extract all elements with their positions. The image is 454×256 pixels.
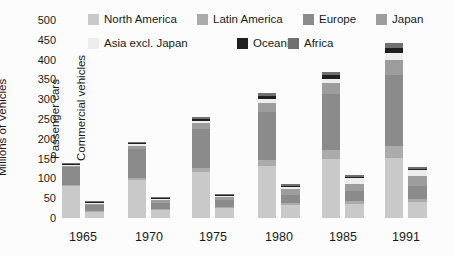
bar-segment-1985-commercial-japan — [345, 184, 364, 191]
passenger-cars-label: Passenger cars — [49, 79, 63, 159]
legend-item-latin-america: Latin America — [197, 13, 283, 25]
bar-segment-1985-passenger-latin-america — [322, 150, 340, 158]
bar-segment-1975-passenger-oceania — [192, 119, 210, 121]
bar-segment-1965-commercial-oceania — [85, 202, 104, 203]
bar-segment-1985-passenger-africa — [322, 72, 340, 75]
legend-label-north-america: North America — [104, 13, 177, 25]
bar-segment-1975-commercial-oceania — [215, 195, 234, 196]
bar-segment-1985-commercial-oceania — [345, 177, 364, 179]
bar-segment-1975-commercial-europe — [215, 200, 234, 206]
vehicles-stacked-bar-chart: Millions of Vehicles 0501001502002503003… — [0, 0, 454, 256]
bar-segment-1975-passenger-asia-excl-japan — [192, 121, 210, 123]
bar-segment-1970-commercial-north-america — [151, 210, 170, 218]
x-label-1965: 1965 — [61, 230, 105, 244]
bar-segment-1980-commercial-africa — [281, 184, 300, 185]
x-label-1991: 1991 — [384, 230, 428, 244]
bar-segment-1970-commercial-asia-excl-japan — [151, 199, 170, 200]
bar-segment-1991-commercial-oceania — [408, 169, 427, 171]
bar-segment-1965-passenger-oceania — [62, 164, 80, 166]
bar-segment-1965-passenger-japan — [62, 166, 80, 167]
legend-label-japan: Japan — [392, 13, 423, 25]
bar-segment-1991-passenger-europe — [385, 75, 403, 146]
bar-segment-1970-commercial-africa — [151, 197, 170, 198]
bar-segment-1965-commercial-north-america — [85, 212, 104, 218]
bar-segment-1970-commercial-oceania — [151, 198, 170, 199]
legend-swatch-japan — [376, 14, 387, 25]
bar-segment-1975-passenger-japan — [192, 123, 210, 130]
bar-segment-1965-passenger-asia-excl-japan — [62, 165, 80, 166]
legend-item-asia-excl-japan: Asia excl. Japan — [88, 37, 188, 49]
bar-segment-1965-commercial-asia-excl-japan — [85, 203, 104, 204]
bar-segment-1970-commercial-latin-america — [151, 209, 170, 210]
bar-segment-1975-commercial-asia-excl-japan — [215, 196, 234, 197]
bar-segment-1970-commercial-europe — [151, 203, 170, 209]
legend-label-europe: Europe — [319, 13, 356, 25]
bar-segment-1970-passenger-europe — [128, 149, 146, 178]
bar-segment-1970-passenger-north-america — [128, 180, 146, 218]
bar-segment-1980-passenger-latin-america — [258, 160, 276, 166]
bar-segment-1980-passenger-europe — [258, 112, 276, 160]
bar-segment-1965-commercial-japan — [85, 204, 104, 206]
bar-segment-1975-commercial-japan — [215, 197, 234, 201]
bar-segment-1985-passenger-north-america — [322, 159, 340, 218]
bar-segment-1970-passenger-japan — [128, 146, 146, 150]
bar-segment-1965-commercial-africa — [85, 201, 104, 202]
bar-segment-1980-commercial-north-america — [281, 205, 300, 218]
bar-segment-1965-commercial-europe — [85, 205, 104, 211]
legend-swatch-africa — [288, 38, 299, 49]
bar-segment-1985-commercial-north-america — [345, 204, 364, 218]
bar-segment-1991-commercial-europe — [408, 186, 427, 199]
legend-swatch-europe — [303, 14, 314, 25]
bar-segment-1985-commercial-europe — [345, 191, 364, 201]
bar-segment-1980-passenger-asia-excl-japan — [258, 99, 276, 103]
legend-swatch-north-america — [88, 14, 99, 25]
x-label-1970: 1970 — [127, 230, 171, 244]
bar-segment-1965-passenger-africa — [62, 163, 80, 164]
bar-segment-1985-passenger-oceania — [322, 75, 340, 79]
bar-segment-1985-passenger-europe — [322, 94, 340, 151]
bar-segment-1985-passenger-japan — [322, 83, 340, 94]
bar-segment-1991-passenger-oceania — [385, 48, 403, 53]
bar-segment-1970-commercial-japan — [151, 200, 170, 203]
bar-segment-1975-passenger-europe — [192, 129, 210, 168]
bar-segment-1970-passenger-asia-excl-japan — [128, 144, 146, 145]
commercial-vehicles-label: Commercial vehicles — [75, 55, 89, 161]
legend-label-asia-excl-japan: Asia excl. Japan — [104, 37, 188, 49]
bar-segment-1965-passenger-latin-america — [62, 185, 80, 187]
legend-item-japan: Japan — [376, 13, 423, 25]
bar-segment-1980-commercial-asia-excl-japan — [281, 187, 300, 189]
legend-swatch-asia-excl-japan — [88, 38, 99, 49]
bar-segment-1980-commercial-europe — [281, 195, 300, 203]
legend-item-africa: Africa — [288, 37, 333, 49]
bar-segment-1970-passenger-latin-america — [128, 178, 146, 180]
bar-segment-1975-commercial-north-america — [215, 208, 234, 218]
bar-segment-1965-passenger-north-america — [62, 186, 80, 218]
bar-segment-1980-passenger-oceania — [258, 96, 276, 99]
bar-segment-1965-commercial-latin-america — [85, 211, 104, 212]
bar-segment-1975-passenger-north-america — [192, 172, 210, 218]
bar-segment-1991-passenger-asia-excl-japan — [385, 53, 403, 61]
bar-segment-1980-passenger-japan — [258, 103, 276, 112]
x-label-1985: 1985 — [321, 230, 365, 244]
bar-segment-1985-commercial-asia-excl-japan — [345, 178, 364, 184]
bar-segment-1965-passenger-europe — [62, 167, 80, 185]
bar-segment-1991-commercial-africa — [408, 167, 427, 169]
bar-segment-1985-passenger-asia-excl-japan — [322, 79, 340, 83]
bar-segment-1970-passenger-africa — [128, 142, 146, 143]
bar-segment-1991-commercial-japan — [408, 176, 427, 186]
bar-segment-1985-commercial-latin-america — [345, 201, 364, 203]
bar-segment-1980-commercial-latin-america — [281, 203, 300, 205]
bar-segment-1980-commercial-japan — [281, 189, 300, 195]
bar-segment-1975-commercial-latin-america — [215, 207, 234, 208]
legend-item-europe: Europe — [303, 13, 356, 25]
legend-item-north-america: North America — [88, 13, 177, 25]
bar-segment-1975-commercial-africa — [215, 194, 234, 195]
bar-segment-1991-passenger-japan — [385, 60, 403, 75]
bar-segment-1991-passenger-latin-america — [385, 146, 403, 158]
bar-segment-1970-passenger-oceania — [128, 143, 146, 145]
bar-segment-1980-passenger-north-america — [258, 166, 276, 218]
bar-segment-1980-commercial-oceania — [281, 186, 300, 187]
bar-segment-1975-passenger-africa — [192, 117, 210, 119]
legend-label-latin-america: Latin America — [213, 13, 283, 25]
bar-segment-1985-commercial-africa — [345, 175, 364, 177]
